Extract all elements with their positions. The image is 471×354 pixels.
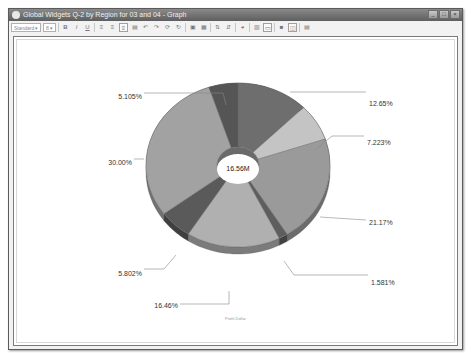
slice-label: 21.17% bbox=[369, 219, 393, 226]
undo-icon[interactable]: ↶ bbox=[141, 23, 150, 32]
refresh-icon[interactable]: ↻ bbox=[174, 23, 183, 32]
color-icon[interactable]: ■ bbox=[277, 23, 286, 32]
separator bbox=[94, 23, 95, 32]
separator bbox=[210, 23, 211, 32]
chart-caption: Profit Dollar bbox=[14, 316, 457, 321]
graph-window: Global Widgets Q-2 by Region for 03 and … bbox=[8, 8, 463, 350]
leader-line bbox=[180, 291, 229, 304]
legend-icon[interactable]: ▭ bbox=[263, 23, 272, 32]
align-center-button[interactable]: ≡ bbox=[108, 23, 117, 32]
leader-line bbox=[144, 255, 176, 269]
chart-canvas: 12.65%7.223%21.17%1.581%16.46%5.802%30.0… bbox=[13, 36, 458, 346]
title-bar[interactable]: Global Widgets Q-2 by Region for 03 and … bbox=[9, 9, 462, 21]
font-size-select[interactable]: 8▾ bbox=[43, 23, 56, 32]
slice-label: 5.105% bbox=[118, 93, 142, 100]
chart-options-icon[interactable]: ▦ bbox=[199, 23, 208, 32]
chevron-down-icon: ▾ bbox=[50, 24, 53, 31]
minimize-button[interactable]: _ bbox=[428, 10, 438, 19]
export-icon[interactable]: ▤ bbox=[302, 23, 311, 32]
sort-desc-icon[interactable]: ⇵ bbox=[224, 23, 233, 32]
window-title: Global Widgets Q-2 by Region for 03 and … bbox=[23, 10, 186, 20]
leader-line bbox=[284, 261, 368, 275]
bold-button[interactable]: B bbox=[61, 23, 70, 32]
separator bbox=[235, 23, 236, 32]
pie-options-icon[interactable]: ◕ bbox=[238, 23, 247, 32]
align-right-button[interactable]: ≡ bbox=[119, 23, 128, 32]
chevron-down-icon: ▾ bbox=[35, 24, 38, 31]
separator bbox=[299, 23, 300, 32]
separator bbox=[185, 23, 186, 32]
separator bbox=[58, 23, 59, 32]
slice-label: 7.223% bbox=[367, 139, 391, 146]
underline-button[interactable]: U bbox=[83, 23, 92, 32]
sort-asc-icon[interactable]: ⇅ bbox=[213, 23, 222, 32]
slice-label: 30.00% bbox=[108, 159, 132, 166]
slice-label: 5.802% bbox=[118, 270, 142, 277]
app-icon bbox=[12, 11, 20, 19]
slice-label: 16.46% bbox=[154, 302, 178, 309]
separator bbox=[249, 23, 250, 32]
slice-label: 12.65% bbox=[369, 100, 393, 107]
insert-icon[interactable]: ▤ bbox=[130, 23, 139, 32]
font-select[interactable]: Standard▾ bbox=[11, 23, 41, 32]
close-button[interactable]: × bbox=[450, 10, 460, 19]
center-total-label: 16.56M bbox=[226, 165, 250, 172]
separator bbox=[274, 23, 275, 32]
properties-icon[interactable]: ◫ bbox=[288, 23, 297, 32]
redo-icon[interactable]: ↷ bbox=[152, 23, 161, 32]
maximize-button[interactable]: □ bbox=[439, 10, 449, 19]
slice-label: 1.581% bbox=[371, 279, 395, 286]
chart-type-icon[interactable]: ▣ bbox=[188, 23, 197, 32]
grid-icon[interactable]: ▥ bbox=[252, 23, 261, 32]
toolbar: Standard▾ 8▾ B I U ≡ ≡ ≡ ▤ ↶ ↷ ⟳ ↻ ▣ ▦ ⇅… bbox=[11, 22, 460, 33]
donut-chart: 12.65%7.223%21.17%1.581%16.46%5.802%30.0… bbox=[14, 37, 457, 345]
rotate-icon[interactable]: ⟳ bbox=[163, 23, 172, 32]
leader-line bbox=[320, 217, 366, 220]
italic-button[interactable]: I bbox=[72, 23, 81, 32]
align-left-button[interactable]: ≡ bbox=[97, 23, 106, 32]
